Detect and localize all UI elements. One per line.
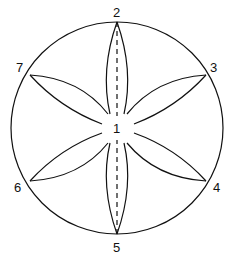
petal-bottom-left-edge — [106, 143, 117, 234]
petal-diagram: 1 2 3 4 5 6 7 — [0, 0, 234, 260]
label-lower-right: 4 — [213, 180, 220, 195]
petal-top-left-edge — [106, 22, 117, 114]
label-upper-right: 3 — [210, 60, 217, 75]
label-upper-left: 7 — [16, 60, 23, 75]
label-bottom: 5 — [113, 240, 120, 255]
label-lower-left: 6 — [14, 180, 21, 195]
label-center: 1 — [113, 121, 120, 136]
petal-bottom-right-edge — [117, 143, 128, 234]
label-top: 2 — [113, 5, 120, 20]
petal-top-right-edge — [117, 22, 128, 114]
